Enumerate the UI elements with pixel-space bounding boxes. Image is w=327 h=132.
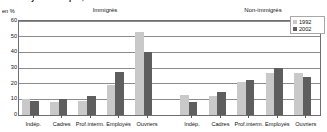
bar bbox=[209, 96, 218, 115]
x-axis-tick bbox=[33, 115, 34, 118]
x-axis-tick bbox=[191, 115, 192, 118]
y-axis-unit-label: en % bbox=[2, 8, 15, 14]
x-axis-tick bbox=[118, 115, 119, 118]
x-axis-tick bbox=[220, 115, 221, 118]
legend-item-1992: 1992 bbox=[293, 18, 323, 25]
x-axis-tick bbox=[90, 115, 91, 118]
x-axis-tick bbox=[147, 115, 148, 118]
x-axis-category-label: Cadres bbox=[53, 121, 71, 127]
x-axis-tick bbox=[277, 115, 278, 118]
y-axis-tick-label: 60 bbox=[3, 17, 17, 23]
y-axis-tick-label: 50 bbox=[3, 33, 17, 39]
legend-item-2002: 2002 bbox=[293, 25, 323, 32]
legend-swatch-1992-icon bbox=[293, 20, 297, 24]
x-axis-tick bbox=[305, 115, 306, 118]
bar bbox=[107, 85, 116, 115]
bar bbox=[78, 101, 87, 115]
x-axis-category-label: Employés bbox=[106, 121, 131, 127]
bar bbox=[294, 73, 303, 115]
bar bbox=[50, 102, 59, 115]
legend-label-1992: 1992 bbox=[299, 19, 311, 25]
y-axis-tick-label: 0 bbox=[3, 111, 17, 117]
gridline bbox=[19, 21, 320, 22]
y-axis-tick-label: 10 bbox=[3, 95, 17, 101]
bar bbox=[303, 77, 312, 115]
bar bbox=[217, 92, 226, 116]
legend-label-2002: 2002 bbox=[299, 26, 311, 32]
bar bbox=[30, 101, 39, 115]
y-axis-tick-label: 30 bbox=[3, 64, 17, 70]
x-axis-category-label: Prof.interm. bbox=[234, 121, 263, 127]
gridline bbox=[19, 52, 320, 53]
bar bbox=[135, 32, 144, 115]
y-axis-tick-label: 40 bbox=[3, 48, 17, 54]
x-axis-category-label: Cadres bbox=[211, 121, 229, 127]
bar bbox=[87, 96, 96, 115]
x-axis-category-label: Prof.interm. bbox=[76, 121, 105, 127]
bar bbox=[22, 99, 31, 115]
bar bbox=[180, 95, 189, 115]
panel-header-immigres: Immigrés bbox=[40, 7, 170, 13]
x-axis-category-label: Employés bbox=[265, 121, 290, 127]
bar bbox=[246, 80, 255, 115]
bar bbox=[59, 99, 68, 115]
x-axis-category-label: Indép. bbox=[184, 121, 200, 127]
panel-header-non-immigres: Non-immigrés bbox=[198, 7, 327, 13]
bar bbox=[274, 68, 283, 115]
gridline bbox=[19, 36, 320, 37]
y-axis-tick-label: 20 bbox=[3, 80, 17, 86]
bar bbox=[144, 52, 153, 115]
chart-legend: 1992 2002 bbox=[290, 16, 325, 34]
x-axis-category-label: Indép. bbox=[25, 121, 41, 127]
x-axis-category-label: Ouvriers bbox=[136, 121, 157, 127]
bar bbox=[189, 102, 198, 115]
bar bbox=[237, 82, 246, 115]
x-axis-category-label: Ouvriers bbox=[295, 121, 316, 127]
legend-swatch-2002-icon bbox=[293, 27, 297, 31]
x-axis-tick bbox=[248, 115, 249, 118]
plot-area bbox=[18, 20, 321, 116]
page-title: ayant un emploi, entre 1992 et 2002 bbox=[27, 0, 267, 1]
bar bbox=[115, 72, 124, 115]
bar bbox=[266, 73, 275, 115]
x-axis-tick bbox=[61, 115, 62, 118]
bar-chart-figure: ayant un emploi, entre 1992 et 2002 en %… bbox=[0, 0, 327, 132]
